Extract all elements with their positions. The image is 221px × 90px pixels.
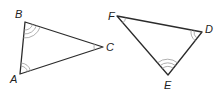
vertex-label-b: B xyxy=(15,8,22,20)
angle-a-marks xyxy=(21,63,31,72)
triangle-abc-edges xyxy=(20,22,103,74)
vertex-label-f: F xyxy=(108,10,116,22)
vertex-label-a: A xyxy=(9,73,17,85)
triangle-def: F D E xyxy=(108,10,213,90)
angle-f-marks xyxy=(123,18,126,24)
triangle-def-edges xyxy=(117,16,202,75)
similar-triangles-diagram: A B C F D E xyxy=(0,0,221,90)
triangle-abc: A B C xyxy=(9,8,114,85)
vertex-label-d: D xyxy=(205,23,213,35)
vertex-label-c: C xyxy=(106,41,114,53)
vertex-label-e: E xyxy=(164,79,172,90)
